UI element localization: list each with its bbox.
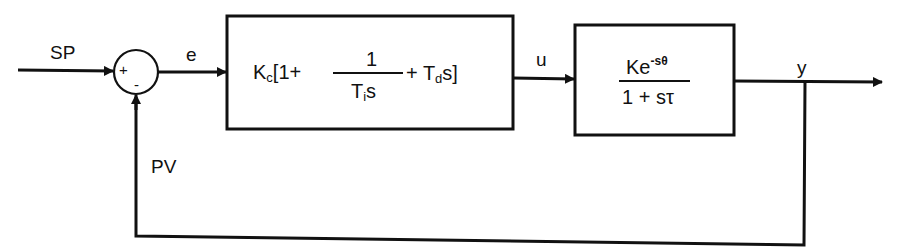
plant-fraction-bar	[619, 80, 690, 82]
plant-denominator: 1 + sτ	[622, 87, 674, 107]
output-arrow	[734, 81, 882, 82]
integral-denominator: Tis	[351, 81, 376, 103]
feedback-label: PV	[151, 157, 176, 176]
minus-sign: -	[134, 77, 139, 92]
pid-block-diagram: SP e u y PV + - Kc[1+ 1 Tis + Tds] Ke-sθ…	[0, 0, 907, 248]
integral-fraction-bar	[333, 72, 403, 74]
error-label: e	[186, 45, 197, 64]
control-label: u	[536, 50, 547, 69]
plant-numerator: Ke-sθ	[626, 55, 668, 77]
integral-numerator: 1	[366, 49, 377, 69]
setpoint-label: SP	[50, 43, 75, 62]
output-label: y	[797, 58, 807, 77]
controller-equation: Kc[1+	[253, 62, 301, 84]
control-arrow	[513, 78, 574, 79]
plus-sign: +	[119, 62, 128, 77]
derivative-term: + Tds]	[406, 63, 458, 85]
diagram-lines	[0, 0, 907, 248]
setpoint-arrow	[18, 70, 113, 71]
